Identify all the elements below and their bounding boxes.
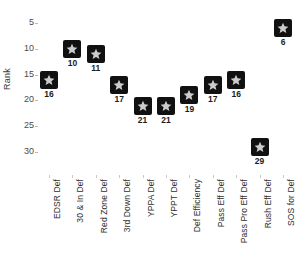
y-tick-label-20: 20 xyxy=(12,95,34,104)
star-marker-icon xyxy=(251,138,269,156)
data-point-value: 16 xyxy=(44,90,53,99)
data-point-value: 6 xyxy=(281,38,286,47)
data-point: 19 xyxy=(180,86,198,104)
star-marker-icon xyxy=(63,40,81,58)
y-tick-label-15: 15 xyxy=(12,70,34,79)
plot-area: 161011172121191716296 xyxy=(36,0,297,177)
data-point-value: 19 xyxy=(185,105,194,114)
x-tick-mark xyxy=(49,175,50,178)
x-tick-mark xyxy=(189,175,190,178)
x-axis-label-yppt-def: YPPT Def xyxy=(170,179,179,267)
y-tick-label-30: 30 xyxy=(12,147,34,156)
data-point-value: 10 xyxy=(68,59,77,68)
x-tick-mark xyxy=(213,175,214,178)
data-point: 6 xyxy=(274,19,292,37)
x-tick-mark xyxy=(166,175,167,178)
x-axis-label-edsr-def: EDSR Def xyxy=(53,179,62,267)
star-marker-icon xyxy=(134,97,152,115)
star-marker-icon xyxy=(274,19,292,37)
data-point: 21 xyxy=(134,97,152,115)
data-point-value: 21 xyxy=(161,116,170,125)
rank-scatter-chart: Rank 51015202530 161011172121191716296 E… xyxy=(0,0,297,269)
y-tick-label-5: 5 xyxy=(12,18,34,27)
x-tick-mark xyxy=(236,175,237,178)
data-point: 29 xyxy=(251,138,269,156)
data-point: 16 xyxy=(227,71,245,89)
x-axis-label-red-zone-def: Red Zone Def xyxy=(100,179,109,267)
x-axis-label-3rd-down-def: 3rd Down Def xyxy=(123,179,132,267)
x-axis-label-yppa-def: YPPA Def xyxy=(147,179,156,267)
data-point-value: 11 xyxy=(91,64,100,73)
data-point-value: 21 xyxy=(138,116,147,125)
star-marker-icon xyxy=(227,71,245,89)
x-axis-label-group: EDSR Def30 & In DefRed Zone Def3rd Down … xyxy=(36,179,297,269)
data-point: 16 xyxy=(40,71,58,89)
x-axis-label-rush-eff-def: Rush Eff Def xyxy=(264,179,273,267)
y-axis-tick-group: 51015202530 xyxy=(0,0,34,269)
data-point: 21 xyxy=(157,97,175,115)
x-axis-label-def-efficiency: Def Efficiency xyxy=(193,179,202,267)
data-point-value: 16 xyxy=(231,90,240,99)
data-point-value: 29 xyxy=(255,157,264,166)
x-axis-label-pass-eff-def: Pass Eff Def xyxy=(217,179,226,267)
data-point: 17 xyxy=(110,76,128,94)
star-marker-icon xyxy=(204,76,222,94)
x-tick-mark xyxy=(260,175,261,178)
x-axis-label-sos-for-def: SOS for Def xyxy=(287,179,296,267)
star-marker-icon xyxy=(157,97,175,115)
x-axis-label-pass-pro-eff-def: Pass Pro Eff Def xyxy=(240,179,249,267)
x-tick-mark xyxy=(96,175,97,178)
x-tick-mark xyxy=(143,175,144,178)
star-marker-icon xyxy=(110,76,128,94)
data-point: 11 xyxy=(87,45,105,63)
y-tick-label-10: 10 xyxy=(12,44,34,53)
y-tick-label-25: 25 xyxy=(12,121,34,130)
data-point-value: 17 xyxy=(208,95,217,104)
star-marker-icon xyxy=(40,71,58,89)
star-marker-icon xyxy=(180,86,198,104)
data-point: 17 xyxy=(204,76,222,94)
star-marker-icon xyxy=(87,45,105,63)
x-tick-mark xyxy=(119,175,120,178)
x-axis-label-30-in-def: 30 & In Def xyxy=(76,179,85,267)
x-tick-mark xyxy=(283,175,284,178)
data-point-value: 17 xyxy=(114,95,123,104)
data-point: 10 xyxy=(63,40,81,58)
x-tick-mark xyxy=(72,175,73,178)
